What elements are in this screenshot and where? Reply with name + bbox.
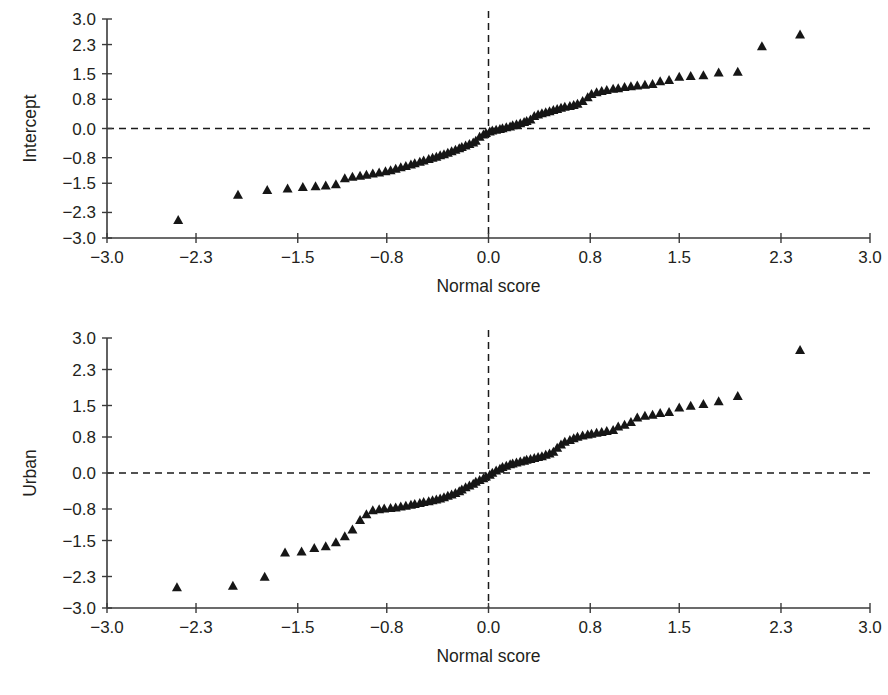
data-point-marker: [280, 548, 290, 557]
data-point-marker: [331, 537, 341, 546]
data-point-marker: [664, 407, 674, 416]
data-point-marker: [648, 410, 658, 419]
y-tick-label: −0.8: [62, 149, 96, 168]
data-point-marker: [733, 391, 743, 400]
x-tick-label: −0.8: [370, 248, 404, 267]
y-tick-label: 1.5: [72, 65, 96, 84]
x-axis-title: Normal score: [436, 646, 540, 666]
y-tick-label: 2.3: [72, 361, 96, 380]
y-tick-label: 0.0: [72, 464, 96, 483]
data-point-marker: [172, 582, 182, 591]
y-tick-label: 3.0: [72, 329, 96, 348]
data-point-marker: [297, 547, 307, 556]
chart-panel-urban: −3.0−2.3−1.5−0.80.00.81.52.33.0−3.0−2.3−…: [0, 312, 888, 695]
x-tick-label: −2.3: [179, 248, 213, 267]
x-tick-label: 2.3: [769, 248, 793, 267]
data-point-marker: [233, 190, 243, 199]
data-point-marker: [632, 413, 642, 422]
x-tick-label: 0.0: [477, 248, 501, 267]
y-tick-label: −2.3: [62, 568, 96, 587]
x-tick-label: 0.8: [578, 248, 602, 267]
chart-urban: −3.0−2.3−1.5−0.80.00.81.52.33.0−3.0−2.3−…: [0, 312, 888, 695]
data-point-marker: [733, 67, 743, 76]
y-tick-label: −3.0: [62, 229, 96, 248]
y-tick-label: 0.8: [72, 90, 96, 109]
y-tick-label: 0.0: [72, 120, 96, 139]
y-tick-label: 0.8: [72, 428, 96, 447]
y-tick-label: −3.0: [62, 599, 96, 618]
data-point-marker: [698, 399, 708, 408]
data-point-marker: [757, 41, 767, 50]
data-point-marker: [340, 173, 350, 182]
x-tick-label: 3.0: [858, 618, 882, 637]
data-point-marker: [321, 541, 331, 550]
y-axis-title: Intercept: [20, 94, 40, 162]
data-point-marker: [311, 181, 321, 190]
data-point-marker: [655, 408, 665, 417]
y-tick-label: 1.5: [72, 397, 96, 416]
x-tick-label: −1.5: [281, 248, 315, 267]
data-point-marker: [795, 29, 805, 38]
y-tick-label: 3.0: [72, 10, 96, 29]
data-point-marker: [347, 525, 357, 534]
data-point-marker: [664, 75, 674, 84]
data-point-marker: [228, 581, 238, 590]
data-point-marker: [321, 181, 331, 190]
y-tick-label: 2.3: [72, 36, 96, 55]
data-point-marker: [260, 572, 270, 581]
data-point-marker: [648, 79, 658, 88]
data-point-marker: [283, 184, 293, 193]
x-tick-label: −3.0: [90, 248, 124, 267]
x-tick-label: 1.5: [667, 248, 691, 267]
x-tick-label: 0.0: [477, 618, 501, 637]
data-point-marker: [714, 67, 724, 76]
y-tick-label: −0.8: [62, 500, 96, 519]
data-point-marker: [714, 396, 724, 405]
x-tick-label: −0.8: [370, 618, 404, 637]
y-tick-label: −2.3: [62, 203, 96, 222]
x-tick-label: 0.8: [578, 618, 602, 637]
data-point-marker: [674, 403, 684, 412]
y-axis-title: Urban: [20, 449, 40, 497]
x-tick-label: −3.0: [90, 618, 124, 637]
data-point-marker: [173, 215, 183, 224]
chart-intercept: −3.0−2.3−1.5−0.80.00.81.52.33.0−3.0−2.3−…: [0, 0, 888, 310]
x-tick-label: 1.5: [667, 618, 691, 637]
y-tick-label: −1.5: [62, 174, 96, 193]
x-tick-label: −2.3: [179, 618, 213, 637]
data-point-marker: [309, 543, 319, 552]
data-point-marker: [331, 179, 341, 188]
data-point-marker: [795, 345, 805, 354]
x-tick-label: 2.3: [769, 618, 793, 637]
data-point-marker: [686, 71, 696, 80]
data-point-marker: [262, 185, 272, 194]
x-tick-label: 3.0: [858, 248, 882, 267]
qq-plot-figure: −3.0−2.3−1.5−0.80.00.81.52.33.0−3.0−2.3−…: [0, 0, 888, 695]
data-point-marker: [674, 72, 684, 81]
data-point-marker: [698, 70, 708, 79]
data-point-marker: [686, 401, 696, 410]
data-point-marker: [298, 182, 308, 191]
x-axis-title: Normal score: [436, 276, 540, 296]
chart-panel-intercept: −3.0−2.3−1.5−0.80.00.81.52.33.0−3.0−2.3−…: [0, 0, 888, 310]
data-point-marker: [655, 76, 665, 85]
y-tick-label: −1.5: [62, 532, 96, 551]
x-tick-label: −1.5: [281, 618, 315, 637]
